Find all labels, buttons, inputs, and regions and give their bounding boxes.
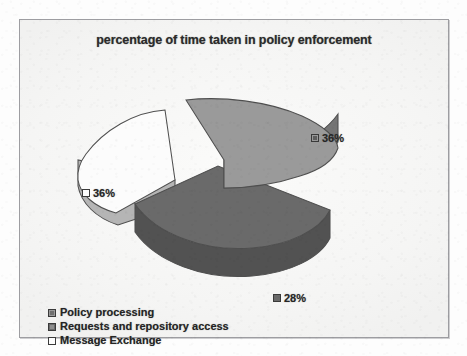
data-label-value-message-exchange: 36% bbox=[93, 187, 115, 199]
legend-label-requests-repository-access: Requests and repository access bbox=[60, 320, 229, 333]
legend-swatch-message-exchange bbox=[48, 337, 56, 345]
data-label-value-requests-repository-access: 28% bbox=[284, 292, 306, 304]
data-label-message-exchange: 36% bbox=[82, 187, 115, 199]
chart-frame: percentage of time taken in policy enfor… bbox=[19, 19, 449, 338]
scanned-page-background: percentage of time taken in policy enfor… bbox=[0, 0, 467, 356]
data-label-policy-processing: 36% bbox=[311, 132, 344, 144]
data-label-key-requests-repository-access bbox=[273, 294, 281, 302]
legend-label-policy-processing: Policy processing bbox=[60, 306, 154, 319]
data-label-value-policy-processing: 36% bbox=[322, 132, 344, 144]
chart-title: percentage of time taken in policy enfor… bbox=[20, 33, 448, 47]
legend-swatch-policy-processing bbox=[48, 309, 56, 317]
legend-item-requests-repository-access[interactable]: Requests and repository access bbox=[48, 320, 229, 333]
legend-item-policy-processing[interactable]: Policy processing bbox=[48, 306, 229, 319]
legend-label-message-exchange: Message Exchange bbox=[60, 334, 162, 347]
legend-swatch-requests-repository-access bbox=[48, 323, 56, 331]
legend-item-message-exchange[interactable]: Message Exchange bbox=[48, 334, 229, 347]
pie-chart bbox=[72, 98, 372, 298]
chart-legend: Policy processing Requests and repositor… bbox=[48, 306, 229, 347]
data-label-key-message-exchange bbox=[82, 189, 90, 197]
data-label-key-policy-processing bbox=[311, 134, 319, 142]
data-label-requests-repository-access: 28% bbox=[273, 292, 306, 304]
